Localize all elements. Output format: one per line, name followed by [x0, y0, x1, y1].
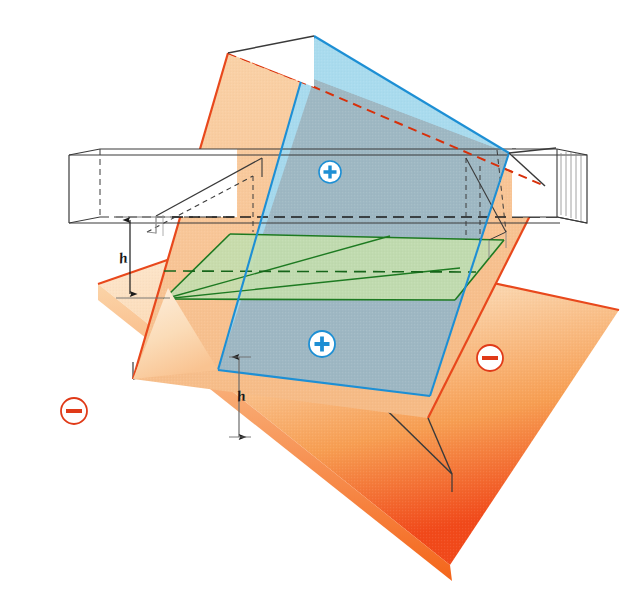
green-plane-edge-front: [164, 299, 455, 300]
electrostatics-diagram: h h + + − − Inclined charged plane inter…: [0, 0, 627, 611]
charge-badge-minus-left: −: [61, 398, 87, 424]
charge-badge-plus-lower: +: [309, 331, 335, 357]
diagram-root: h h + + − − Inclined charged plane inter…: [0, 0, 627, 611]
charge-badge-plus-upper: +: [319, 161, 341, 183]
charge-badge-minus-right: −: [477, 345, 503, 371]
white-rectangular-beam-right: [512, 149, 587, 223]
